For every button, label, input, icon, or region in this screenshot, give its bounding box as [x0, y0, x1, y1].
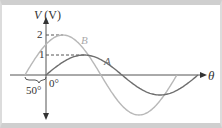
- x-axis-label: θ: [208, 69, 214, 82]
- y-axis-label: V (V): [34, 9, 61, 21]
- curve-a-label: A: [104, 56, 111, 67]
- y-axis-arrow-down: [43, 113, 49, 120]
- phase-brace: [25, 77, 46, 83]
- tick-label-1: 1: [39, 49, 45, 60]
- y-axis-label-variable: V: [34, 8, 41, 22]
- x-axis-arrow: [200, 72, 207, 78]
- curve-b-label: B: [81, 35, 88, 46]
- tick-label-2: 2: [37, 29, 43, 40]
- phase-shift-label: 50°: [26, 85, 41, 96]
- origin-label: 0°: [49, 78, 59, 89]
- y-axis-label-unit: (V): [44, 8, 61, 22]
